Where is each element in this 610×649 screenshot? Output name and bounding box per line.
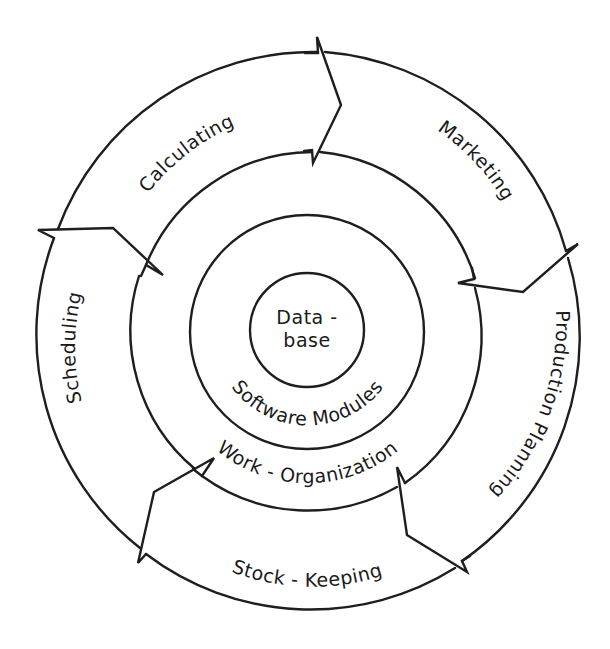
segment-label-marketing: Marketing <box>435 115 520 204</box>
arrow-marketing-to-production-icon <box>458 244 578 292</box>
center-label-line1: Data - <box>276 306 337 328</box>
segment-label-production-planning: Production Planning <box>486 310 574 504</box>
segment-label-calculating: Calculating <box>134 109 237 196</box>
arrow-calculating-to-marketing <box>304 37 341 163</box>
work-organization-ring-left <box>130 276 195 469</box>
center-label-line2: base <box>283 329 330 351</box>
arrow-stock-to-scheduling-icon <box>138 458 214 563</box>
arrow-production-to-stock-icon <box>397 467 470 572</box>
outer-ring-left <box>36 238 140 548</box>
segment-label-stock-keeping: Stock - Keeping <box>230 555 385 591</box>
segment-label-scheduling: Scheduling <box>57 289 86 406</box>
cycle-diagram: Data - base Software Modules Work - Orga… <box>0 0 610 649</box>
work-organization-label: Work - Organization <box>214 436 402 488</box>
work-organization-ring-lower-right <box>405 288 481 483</box>
arrow-scheduling-to-calculating-icon <box>38 228 163 276</box>
software-modules-label: Software Modules <box>228 375 387 429</box>
